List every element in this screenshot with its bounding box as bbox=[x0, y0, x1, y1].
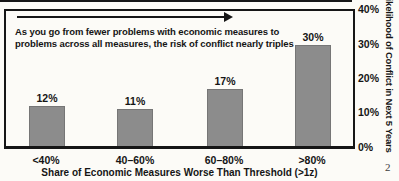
top-rule bbox=[0, 0, 352, 2]
bar-value-label: 12% bbox=[36, 92, 57, 104]
x-tick-gt-80pct: >80% bbox=[298, 154, 325, 166]
y-tick-20: 20% bbox=[358, 72, 379, 84]
x-tick-60-80pct: 60–80% bbox=[205, 154, 244, 166]
y-tick-0: 0% bbox=[358, 141, 373, 153]
x-axis-title: Share of Economic Measures Worse Than Th… bbox=[4, 167, 355, 178]
page-number: 2 bbox=[385, 161, 391, 173]
slide: As you go from fewer problems with econo… bbox=[0, 0, 399, 181]
y-tick-40: 40% bbox=[358, 3, 379, 15]
bar-value-label: 17% bbox=[214, 75, 235, 87]
bar-lt-40pct: 12% bbox=[29, 106, 65, 147]
bar-series: 12% 11% 17% 30% bbox=[6, 11, 351, 146]
y-tick-10: 10% bbox=[358, 106, 379, 118]
y-tick-30: 30% bbox=[358, 38, 379, 50]
bar-value-label: 11% bbox=[125, 95, 145, 107]
bar-60-80pct: 17% bbox=[207, 89, 243, 146]
x-tick-40-60pct: 40–60% bbox=[116, 154, 155, 166]
y-axis-title: Likelihood of Conflict in Next 5 Years bbox=[384, 0, 395, 153]
bar-gt-80pct: 30% bbox=[295, 45, 331, 146]
x-tick-lt-40pct: <40% bbox=[32, 154, 59, 166]
bar-value-label: 30% bbox=[302, 31, 323, 43]
bar-40-60pct: 11% bbox=[117, 109, 153, 146]
